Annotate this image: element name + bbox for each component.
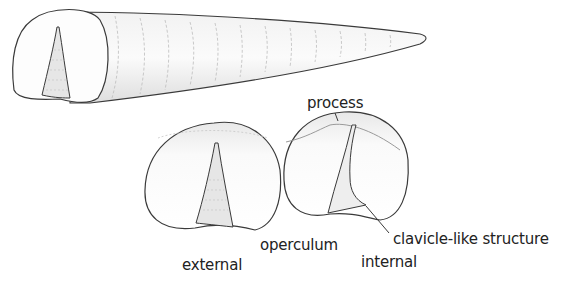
label-process: process <box>307 94 363 112</box>
label-internal: internal <box>361 253 417 271</box>
operculum-external <box>145 122 281 230</box>
operculum-internal <box>284 112 408 233</box>
label-clavicle-like-structure: clavicle-like structure <box>393 230 549 248</box>
conical-shell <box>13 10 426 104</box>
label-external: external <box>182 256 242 274</box>
label-operculum: operculum <box>260 236 338 254</box>
